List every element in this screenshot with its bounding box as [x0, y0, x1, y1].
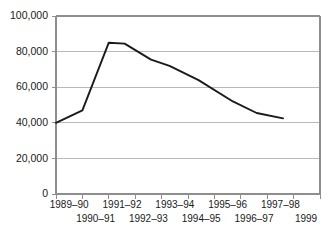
x-axis-tick-label: 1992–93 — [129, 213, 168, 224]
y-axis-tick-label: 20,000 — [16, 152, 48, 164]
y-axis-tick-label: 80,000 — [16, 45, 48, 57]
x-axis-tick-label: 1995–96 — [208, 199, 247, 210]
x-axis-tick-label: 1997–98 — [261, 199, 300, 210]
x-axis-tick-label: 1996–97 — [235, 213, 274, 224]
x-axis-tick-label: 1990–91 — [76, 213, 115, 224]
y-axis-tick-label: 60,000 — [16, 80, 48, 92]
line-chart-figure: 100,00080,00060,00040,00020,0000 1989–90… — [0, 0, 336, 238]
x-axis-tick-label: 1991–92 — [103, 199, 142, 210]
x-axis-tick-label: 1999 — [295, 213, 318, 224]
x-axis-tick-label: 1989–90 — [50, 199, 89, 210]
x-axis-tick-label: 1994–95 — [182, 213, 221, 224]
y-axis-tick-label: 40,000 — [16, 116, 48, 128]
x-axis-labels-row-upper: 1989–901991–921993–941995–961997–98 — [50, 199, 301, 210]
chart-canvas: 100,00080,00060,00040,00020,0000 1989–90… — [0, 0, 336, 238]
y-axis-tick-label: 0 — [42, 187, 48, 199]
y-axis-tick-label: 100,000 — [10, 9, 48, 21]
x-axis-tick-label: 1993–94 — [155, 199, 194, 210]
